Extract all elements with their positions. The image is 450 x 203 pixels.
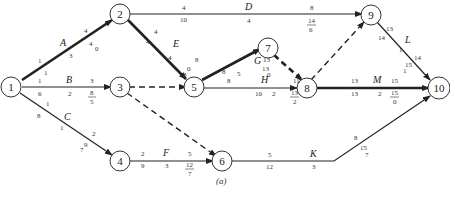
node-8: 8 xyxy=(297,78,317,98)
svg-text:3: 3 xyxy=(312,163,316,171)
svg-text:13: 13 xyxy=(386,25,394,33)
svg-text:K: K xyxy=(309,148,318,159)
svg-text:L: L xyxy=(404,34,411,45)
svg-text:14: 14 xyxy=(378,34,386,42)
svg-text:D: D xyxy=(244,1,253,12)
svg-text:1: 1 xyxy=(46,100,50,108)
svg-text:0: 0 xyxy=(95,45,99,53)
svg-text:F: F xyxy=(162,147,170,158)
svg-text:8: 8 xyxy=(222,68,226,76)
svg-text:6: 6 xyxy=(309,26,313,34)
svg-text:1: 1 xyxy=(399,46,403,54)
svg-text:10: 10 xyxy=(255,90,263,98)
svg-text:1: 1 xyxy=(38,57,42,65)
node-5: 5 xyxy=(184,77,204,97)
node-1: 1 xyxy=(1,77,21,97)
labels-D: 4 10 D 4 8 14 6 xyxy=(180,1,316,34)
svg-text:3: 3 xyxy=(117,81,123,93)
network-diagram: 1 2 3 4 5 6 7 8 9 10 1 1 A 3 4 4 0 1 6 B… xyxy=(0,0,450,203)
svg-text:9: 9 xyxy=(368,9,374,21)
figure-caption: (a) xyxy=(216,176,227,186)
svg-text:8: 8 xyxy=(227,77,231,85)
svg-text:14: 14 xyxy=(414,54,422,62)
svg-text:11: 11 xyxy=(293,77,300,85)
svg-text:2: 2 xyxy=(92,130,96,138)
svg-text:2: 2 xyxy=(272,90,276,98)
edge-K xyxy=(231,96,430,161)
svg-text:10: 10 xyxy=(180,16,188,24)
svg-text:4: 4 xyxy=(247,17,251,25)
svg-text:12: 12 xyxy=(186,161,194,169)
svg-text:2: 2 xyxy=(117,8,123,20)
svg-text:0: 0 xyxy=(393,98,397,106)
svg-text:14: 14 xyxy=(308,17,316,25)
labels-L: 13 14 L 1 14 15 1 xyxy=(378,25,422,75)
svg-text:9: 9 xyxy=(141,162,145,170)
svg-text:13: 13 xyxy=(263,56,271,64)
svg-text:12: 12 xyxy=(266,163,274,171)
svg-text:9: 9 xyxy=(84,141,88,149)
node-6: 6 xyxy=(212,151,232,171)
svg-text:3: 3 xyxy=(69,52,73,60)
edge-C xyxy=(20,93,112,155)
svg-text:8: 8 xyxy=(37,112,41,120)
svg-text:5: 5 xyxy=(188,150,192,158)
svg-text:M: M xyxy=(372,74,382,85)
svg-text:4: 4 xyxy=(89,40,93,48)
svg-text:C: C xyxy=(64,111,71,122)
labels-F: 2 9 F 3 5 12 7 xyxy=(141,147,194,178)
edge-G xyxy=(202,49,260,80)
svg-text:3: 3 xyxy=(165,162,169,170)
svg-text:2: 2 xyxy=(378,90,382,98)
svg-text:7: 7 xyxy=(365,151,369,159)
svg-text:5: 5 xyxy=(237,70,241,78)
svg-text:13: 13 xyxy=(351,90,359,98)
svg-text:A: A xyxy=(59,37,67,48)
svg-text:8: 8 xyxy=(195,56,199,64)
svg-text:4: 4 xyxy=(117,155,123,167)
labels-K: 5 12 K 3 8 15 7 xyxy=(266,134,369,171)
svg-text:1: 1 xyxy=(44,69,48,77)
edge-A xyxy=(22,20,112,80)
node-3: 3 xyxy=(110,77,130,97)
svg-text:5: 5 xyxy=(268,151,272,159)
svg-text:15: 15 xyxy=(391,89,399,97)
svg-text:7: 7 xyxy=(265,42,271,54)
svg-text:7: 7 xyxy=(188,170,192,178)
svg-text:8: 8 xyxy=(310,4,314,12)
svg-text:2: 2 xyxy=(68,90,72,98)
svg-text:10: 10 xyxy=(434,82,446,94)
svg-text:H: H xyxy=(260,74,269,85)
svg-text:2: 2 xyxy=(293,98,297,106)
svg-text:4: 4 xyxy=(182,4,186,12)
svg-text:1: 1 xyxy=(60,124,64,132)
svg-text:8: 8 xyxy=(354,134,358,142)
svg-text:7: 7 xyxy=(80,146,84,154)
node-10: 10 xyxy=(428,77,450,99)
svg-text:4: 4 xyxy=(154,28,158,36)
svg-text:1: 1 xyxy=(403,67,407,75)
svg-text:8: 8 xyxy=(90,89,94,97)
labels-C: 1 8 C 1 2 9 7 xyxy=(37,100,96,154)
svg-text:13: 13 xyxy=(291,89,299,97)
svg-text:5: 5 xyxy=(90,98,94,106)
svg-text:E: E xyxy=(172,38,179,49)
edge-dummy-8-9 xyxy=(311,22,364,80)
svg-text:6: 6 xyxy=(38,90,42,98)
svg-text:13: 13 xyxy=(351,77,359,85)
svg-text:G: G xyxy=(254,55,261,66)
svg-text:6: 6 xyxy=(219,155,225,167)
labels-E: 4 4 E 4 8 8 0 xyxy=(146,28,199,79)
svg-text:8: 8 xyxy=(304,82,310,94)
svg-text:0: 0 xyxy=(187,65,191,73)
svg-text:1: 1 xyxy=(8,81,14,93)
node-9: 9 xyxy=(361,5,381,25)
svg-text:5: 5 xyxy=(191,81,197,93)
svg-text:15: 15 xyxy=(391,77,399,85)
svg-text:1: 1 xyxy=(38,77,42,85)
labels-H: 8 10 H 2 11 13 2 xyxy=(227,74,300,106)
svg-text:4: 4 xyxy=(146,38,150,46)
svg-text:4: 4 xyxy=(84,27,88,35)
node-2: 2 xyxy=(110,4,130,24)
edge-dummy-3-6 xyxy=(127,93,216,156)
